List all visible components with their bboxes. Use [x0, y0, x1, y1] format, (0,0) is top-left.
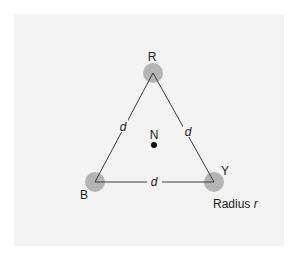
radius-caption: Radius r	[213, 197, 259, 211]
edge-label-by: d	[151, 175, 158, 189]
center-dot	[151, 142, 157, 148]
vertex-label-y: Y	[221, 164, 229, 178]
vertex-label-r: R	[148, 50, 157, 64]
triangle-diagram: d d d R B Y N Radius r	[0, 0, 297, 257]
edge-label-ry: d	[185, 125, 192, 139]
vertex-label-b: B	[80, 188, 88, 202]
edge-label-rb: d	[120, 120, 127, 134]
center-label-n: N	[150, 128, 159, 142]
